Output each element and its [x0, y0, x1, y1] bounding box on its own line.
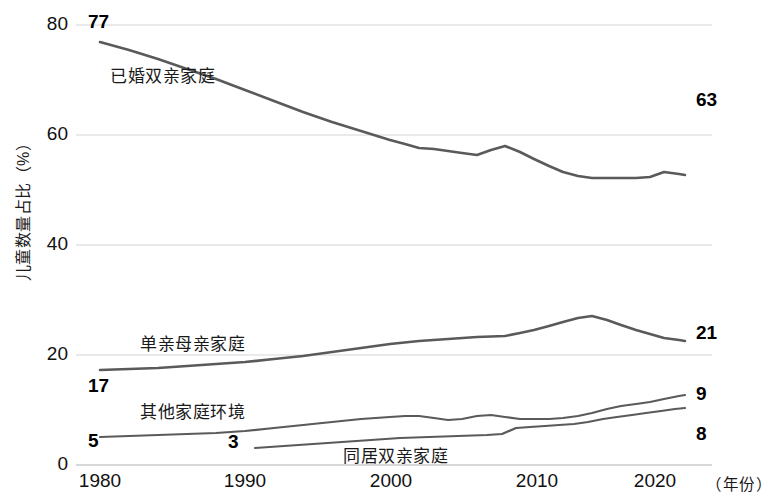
x-tick-2020: 2020 [613, 470, 697, 492]
series-label-married: 已婚双亲家庭 [110, 62, 215, 87]
y-tick-60: 60 [20, 123, 68, 145]
start-label-married: 77 [88, 11, 109, 33]
end-label-cohabiting: 8 [696, 423, 707, 445]
x-tick-1990: 1990 [203, 470, 287, 492]
start-label-other: 5 [88, 430, 99, 452]
y-tick-20: 20 [20, 343, 68, 365]
series-line-cohabiting [255, 408, 685, 448]
x-tick-1980: 1980 [58, 470, 142, 492]
line-chart: 儿童数量占比（%） 80 60 40 20 0 1980 1990 2000 2… [0, 0, 777, 497]
start-label-single-mother: 17 [88, 375, 109, 397]
x-tick-2010: 2010 [495, 470, 579, 492]
series-label-single-mother: 单亲母亲家庭 [140, 330, 245, 355]
y-tick-40: 40 [20, 233, 68, 255]
end-label-other: 9 [696, 383, 707, 405]
x-axis-title: （年份） [706, 472, 772, 494]
end-label-married: 63 [696, 89, 717, 111]
series-label-other: 其他家庭环境 [140, 398, 245, 423]
end-label-single-mother: 21 [696, 322, 717, 344]
start-label-cohabiting: 3 [228, 431, 239, 453]
x-tick-2000: 2000 [349, 470, 433, 492]
series-label-cohabiting: 同居双亲家庭 [343, 442, 448, 467]
y-tick-80: 80 [20, 13, 68, 35]
